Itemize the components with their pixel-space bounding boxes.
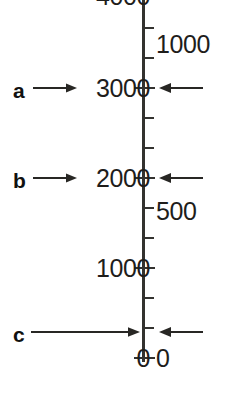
arrow-right-a-icon <box>33 81 79 95</box>
left-scale-label-0: 0 <box>136 346 150 371</box>
axis-tick-minor <box>145 117 154 119</box>
right-scale-label-0: 0 <box>156 346 170 371</box>
marker-label-b: b <box>13 170 26 191</box>
marker-label-a: a <box>13 80 25 101</box>
arrow-right-c-icon <box>31 325 141 339</box>
right-scale-label-1000: 1000 <box>156 32 210 57</box>
left-scale-label-2000: 2000 <box>96 166 150 191</box>
left-scale-label-3000: 3000 <box>96 76 150 101</box>
arrow-right-b-icon <box>33 171 79 185</box>
left-scale-label-4000: 4000 <box>96 0 150 9</box>
arrow-left-a-icon <box>159 81 203 95</box>
right-scale-label-500: 500 <box>156 199 197 224</box>
figure-canvas: 4000 3000 2000 1000 0 1000 500 0 a b <box>0 0 236 405</box>
left-scale-label-1000: 1000 <box>96 256 150 281</box>
axis-tick-minor <box>145 27 154 29</box>
axis-tick-minor <box>145 207 154 209</box>
axis-tick-minor <box>145 327 154 329</box>
arrow-left-b-icon <box>159 171 203 185</box>
axis-tick-minor <box>145 237 154 239</box>
axis-tick-minor <box>145 147 154 149</box>
axis-tick-minor <box>145 57 154 59</box>
axis-tick-minor <box>145 297 154 299</box>
marker-label-c: c <box>13 324 25 345</box>
arrow-left-c-icon <box>159 325 203 339</box>
